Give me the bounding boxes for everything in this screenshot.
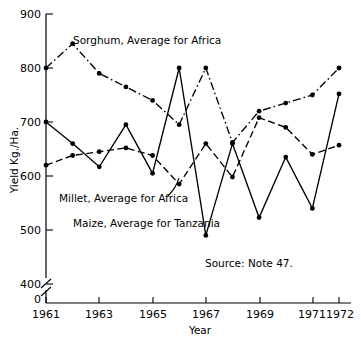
x-tick-label-1972: 1972 xyxy=(326,308,354,321)
sorghum-series-label: Sorghum, Average for Africa xyxy=(73,34,221,46)
x-tick-label-1971: 1971 xyxy=(298,308,326,321)
data-point-marker xyxy=(150,171,155,176)
y-tick-label-700: 700 xyxy=(20,116,41,129)
x-tick-label-1961: 1961 xyxy=(32,308,60,321)
series-sorghum-line xyxy=(44,41,342,145)
y-tick-label-500: 500 xyxy=(20,224,41,237)
data-point-marker xyxy=(310,206,315,211)
data-point-marker xyxy=(97,71,102,76)
data-point-marker xyxy=(177,122,182,127)
data-point-marker xyxy=(337,66,342,71)
y-tick-label-0: 0 xyxy=(34,293,41,306)
source-note-label: Source: Note 47. xyxy=(205,257,293,269)
series-maize-line xyxy=(44,66,342,238)
x-tick-marks xyxy=(46,297,339,303)
x-axis-title: Year xyxy=(188,324,212,336)
data-point-marker xyxy=(257,115,262,120)
data-point-marker xyxy=(283,125,288,130)
x-tick-label-1967: 1967 xyxy=(192,308,220,321)
data-point-marker xyxy=(44,120,49,125)
data-point-marker xyxy=(310,152,315,157)
data-point-marker xyxy=(150,98,155,103)
maize-series-label: Maize, Average for Tanzania xyxy=(73,217,220,229)
data-point-marker xyxy=(203,66,208,71)
y-tick-label-400: 400 xyxy=(20,278,41,291)
data-point-marker xyxy=(70,153,75,158)
x-tick-label-1963: 1963 xyxy=(85,308,113,321)
data-point-marker xyxy=(124,122,129,127)
y-axis-title: Yield Kg./Ha. xyxy=(8,127,20,194)
data-point-marker xyxy=(203,141,208,146)
data-point-marker xyxy=(97,164,102,169)
data-point-marker xyxy=(177,66,182,71)
data-point-marker xyxy=(310,93,315,98)
data-point-marker xyxy=(337,92,342,97)
data-point-marker xyxy=(124,85,129,90)
data-point-marker xyxy=(124,146,129,151)
x-tick-label-1969: 1969 xyxy=(246,308,274,321)
data-point-marker xyxy=(257,215,262,220)
data-point-marker xyxy=(150,153,155,158)
y-tick-label-600: 600 xyxy=(20,170,41,183)
data-point-marker xyxy=(230,175,235,180)
millet-series-label: Millet, Average for Africa xyxy=(59,192,188,204)
y-tick-label-900: 900 xyxy=(20,8,41,21)
series-path xyxy=(46,44,339,143)
series-path xyxy=(46,68,339,235)
data-point-marker xyxy=(70,141,75,146)
data-point-marker xyxy=(337,143,342,148)
y-tick-label-800: 800 xyxy=(20,62,41,75)
data-point-marker xyxy=(230,141,235,146)
data-point-marker xyxy=(97,149,102,154)
data-point-marker xyxy=(283,155,288,160)
data-point-marker xyxy=(44,163,49,168)
data-point-marker xyxy=(44,66,49,71)
x-tick-label-1965: 1965 xyxy=(139,308,167,321)
line-chart: 900 800 700 600 500 400 0 1961 1963 1965… xyxy=(0,0,361,340)
chart-figure: 900 800 700 600 500 400 0 1961 1963 1965… xyxy=(0,0,361,340)
y-tick-marks xyxy=(46,14,53,284)
data-point-marker xyxy=(283,101,288,106)
data-point-marker xyxy=(203,233,208,238)
data-point-marker xyxy=(257,109,262,114)
